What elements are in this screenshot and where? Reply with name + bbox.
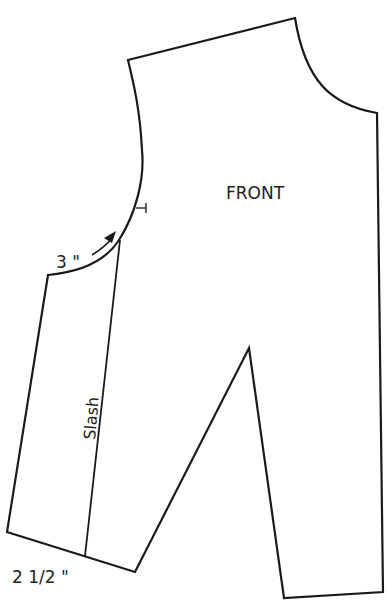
hem-measure-label: 2 1/2 " bbox=[12, 567, 69, 587]
pattern-outline bbox=[7, 18, 383, 598]
front-label: FRONT bbox=[226, 183, 285, 203]
slash-label: Slash bbox=[80, 396, 103, 440]
notch-mark bbox=[136, 203, 146, 213]
pattern-diagram: FRONT 3 " Slash 2 1/2 " bbox=[0, 0, 387, 601]
armhole-measure-label: 3 " bbox=[56, 252, 80, 272]
curved-arrow-icon bbox=[92, 231, 116, 255]
